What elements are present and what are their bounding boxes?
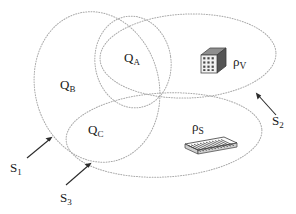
density-label-rho-s: ρS — [192, 119, 204, 136]
arrow-icon-s1 — [27, 137, 53, 158]
ellipse-s1 — [18, 0, 175, 176]
venn-diagram-figure: QA QB QC — [0, 0, 296, 214]
arrow-icon-s3 — [66, 163, 92, 185]
arrow-icon-s2 — [256, 93, 276, 115]
region-label-qa: QA — [124, 50, 140, 67]
set-label-s2: S2 — [272, 113, 284, 130]
density-label-rho-v: ρV — [233, 54, 247, 71]
hatched-slab-icon — [185, 137, 237, 154]
set-label-s1: S1 — [10, 160, 22, 177]
region-label-qb: QB — [60, 77, 75, 94]
set-label-s3: S3 — [60, 190, 72, 207]
cube-icon — [201, 48, 226, 73]
ellipse-s1-outline — [18, 0, 175, 176]
region-label-qc: QC — [88, 122, 103, 139]
diagram-canvas: QA QB QC — [0, 0, 296, 214]
